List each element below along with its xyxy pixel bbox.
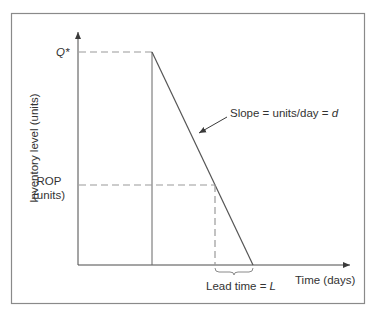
lead-time-label-prefix: Lead time = bbox=[206, 280, 270, 292]
slope-annotation-arrow bbox=[199, 117, 227, 133]
rop-units-label: (units) bbox=[33, 189, 65, 201]
q-star-label: Q* bbox=[56, 46, 70, 58]
x-axis-label: Time (days) bbox=[295, 274, 355, 286]
slope-label: Slope = units/day = d bbox=[230, 107, 339, 119]
lead-time-label: Lead time = L bbox=[206, 280, 276, 292]
rop-label: ROP bbox=[37, 175, 62, 187]
inventory-diagram: Inventory level (units) Q* ROP (units) S… bbox=[0, 0, 372, 311]
slope-label-var: d bbox=[332, 107, 339, 119]
depletion-slope-line bbox=[152, 52, 253, 265]
lead-time-label-var: L bbox=[270, 280, 276, 292]
lead-time-brace bbox=[215, 268, 253, 275]
slope-label-prefix: Slope = units/day = bbox=[230, 107, 332, 119]
